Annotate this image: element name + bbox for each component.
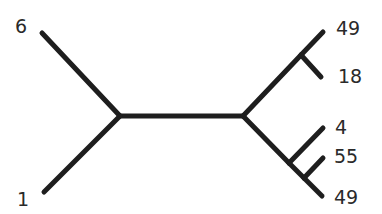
leaf-label-55: 55 <box>334 145 358 167</box>
branch-lower-right <box>243 116 289 163</box>
leaf-label-18: 18 <box>338 65 362 87</box>
branch-upper-right <box>243 55 301 116</box>
branch-to-leaf-49-top <box>301 32 323 55</box>
branch-to-leaf-1 <box>44 116 120 192</box>
leaf-label-49-bottom: 49 <box>334 186 358 208</box>
leaf-label-1: 1 <box>17 188 29 210</box>
branch-to-leaf-49-bottom <box>304 178 322 196</box>
leaf-label-4: 4 <box>335 116 347 138</box>
branch-to-leaf-4 <box>289 128 323 163</box>
branch-lower-inner <box>289 163 304 178</box>
leaf-label-6: 6 <box>15 15 27 37</box>
phylogenetic-tree: 6 1 49 18 4 55 49 <box>0 0 382 214</box>
branch-to-leaf-6 <box>42 33 120 116</box>
branch-to-leaf-18 <box>301 55 321 77</box>
branch-to-leaf-55 <box>304 158 323 178</box>
branches <box>42 32 323 196</box>
leaf-label-49-top: 49 <box>336 17 360 39</box>
